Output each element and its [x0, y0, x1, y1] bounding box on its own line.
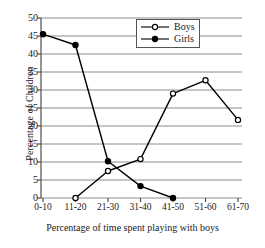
data-point-boys [138, 157, 143, 162]
y-tick-label: 10 [8, 157, 38, 167]
data-point-girls [105, 159, 110, 164]
filled-circle-marker-icon [140, 33, 170, 45]
legend-label-girls: Girls [170, 33, 194, 45]
y-tick-label: 20 [8, 121, 38, 131]
y-tick-label: 15 [8, 139, 38, 149]
data-point-girls [138, 184, 143, 189]
y-tick-label: 45 [8, 31, 38, 41]
x-tick-label: 41-50 [162, 202, 184, 213]
data-point-girls [170, 195, 175, 200]
line-chart: Percentage of Children 50454035302520151… [0, 0, 265, 248]
x-tick-label: 11-20 [65, 202, 87, 213]
x-tick-label: 21-30 [97, 202, 119, 213]
y-tick-label: 50 [8, 13, 38, 23]
x-tick-label: 51-60 [194, 202, 216, 213]
y-tick-label: 5 [8, 175, 38, 185]
data-point-boys [73, 195, 78, 200]
data-point-boys [170, 91, 175, 96]
data-point-girls [73, 42, 78, 47]
x-tick-label: 61-70 [227, 202, 249, 213]
data-point-boys [105, 168, 110, 173]
y-tick-label: 40 [8, 49, 38, 59]
x-axis-title: Percentage of time spent playing with bo… [0, 222, 265, 233]
x-axis-tick-labels: 0-1011-2021-3031-4041-5051-6061-70 [0, 202, 265, 218]
data-point-boys [203, 78, 208, 83]
y-tick-label: 35 [8, 67, 38, 77]
open-circle-marker-icon [140, 21, 170, 33]
x-tick-label: 31-40 [129, 202, 151, 213]
x-tick-label: 0-10 [34, 202, 51, 213]
y-tick-label: 25 [8, 103, 38, 113]
y-tick-label: 30 [8, 85, 38, 95]
legend-item-boys: Boys [140, 21, 195, 33]
legend: Boys Girls [136, 19, 200, 48]
data-point-boys [235, 117, 240, 122]
legend-label-boys: Boys [170, 21, 195, 33]
data-point-girls [40, 32, 45, 37]
legend-item-girls: Girls [140, 33, 195, 45]
